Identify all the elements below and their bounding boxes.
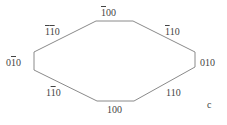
face-label-left: 010: [6, 58, 21, 68]
face-label-top: 100: [101, 8, 116, 18]
face-label-lower-left: 110: [46, 88, 61, 98]
face-label-right: 010: [200, 58, 215, 68]
face-label-upper-right: 110: [165, 27, 180, 37]
face-label-upper-left: 110: [45, 27, 60, 37]
face-label-lower-right: 110: [166, 88, 181, 98]
panel-label: c: [207, 100, 211, 110]
face-label-bottom: 100: [107, 105, 122, 115]
